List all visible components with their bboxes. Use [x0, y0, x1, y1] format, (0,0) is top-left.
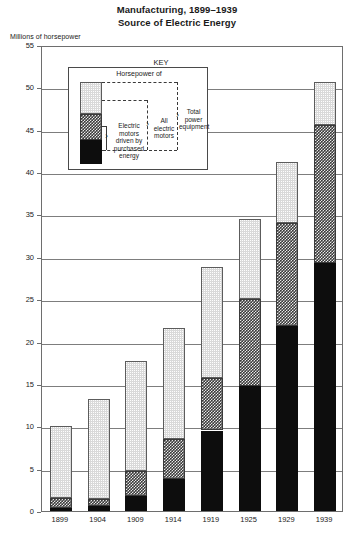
y-tick-label: 30 [4, 254, 34, 262]
segment-other-power [276, 162, 298, 223]
segment-other-power [314, 82, 336, 125]
key-dash-all-electric-bottom [102, 150, 147, 151]
segment-purchased-energy [50, 508, 72, 511]
segment-purchased-energy [201, 431, 223, 511]
y-tick-label: 55 [4, 42, 34, 50]
y-tick-label: 5 [4, 466, 34, 474]
segment-generated-energy [314, 125, 336, 262]
x-tick-label-1909: 1909 [115, 515, 155, 524]
y-tick-label: 20 [4, 339, 34, 347]
key-label-all-electric-motors: Allelectricmotors [151, 117, 177, 140]
segment-generated-energy [276, 223, 298, 326]
chart-title-block: Manufacturing, 1899–1939 Source of Elect… [0, 4, 354, 29]
x-tick-label-1925: 1925 [229, 515, 269, 524]
y-tick-label: 40 [4, 169, 34, 177]
key-swatch-purchased [80, 140, 102, 164]
key-dash-total-top [102, 82, 177, 83]
page-title: Manufacturing, 1899–1939 [0, 4, 354, 17]
key-label-all-electric-line: All [151, 117, 177, 125]
bar-1939[interactable] [314, 45, 336, 511]
segment-other-power [125, 361, 147, 471]
y-tick-label: 25 [4, 296, 34, 304]
bar-1929[interactable] [276, 45, 298, 511]
chart-legend-box: Horsepower of › Electricmotorsdriven byp… [68, 67, 208, 170]
key-brace-purchased-arrow: › [105, 132, 108, 141]
page-subtitle: Source of Electric Energy [0, 17, 354, 30]
x-tick-label-1929: 1929 [266, 515, 306, 524]
segment-other-power [163, 328, 185, 439]
bar-1925[interactable] [239, 45, 261, 511]
key-label-purchased-line: driven by [111, 137, 147, 145]
key-swatch-total-power [80, 82, 102, 114]
key-label-total-power-line: equipment [179, 123, 208, 131]
y-tick-label: 50 [4, 84, 34, 92]
key-label-purchased-line: purchased [111, 145, 147, 153]
key-heading: KEY [131, 58, 191, 67]
key-label-purchased-energy: Electricmotorsdriven bypurchasedenergy [111, 122, 147, 160]
y-tick-label: 45 [4, 127, 34, 135]
segment-generated-energy [125, 471, 147, 496]
key-label-all-electric-line: electric [151, 125, 177, 133]
segment-generated-energy [88, 499, 110, 506]
segment-other-power [239, 219, 261, 299]
segment-purchased-energy [88, 506, 110, 511]
segment-purchased-energy [276, 326, 298, 511]
segment-purchased-energy [125, 496, 147, 511]
key-stacked-swatch [80, 82, 102, 164]
key-brace-purchased-top [102, 126, 106, 127]
x-tick-label-1939: 1939 [304, 515, 344, 524]
key-label-total-power-equipment: Totalpowerequipment [179, 108, 208, 131]
key-brace-all-electric-arrow: › [146, 120, 149, 129]
segment-generated-energy [201, 378, 223, 431]
key-label-all-electric-line: motors [151, 132, 177, 140]
key-label-total-power-line: Total [179, 108, 208, 116]
segment-other-power [201, 267, 223, 378]
y-axis-caption: Millions of horsepower [10, 33, 81, 40]
y-tick-label: 0 [4, 508, 34, 516]
segment-purchased-energy [239, 386, 261, 511]
x-tick-label-1899: 1899 [40, 515, 80, 524]
y-tick-label: 15 [4, 381, 34, 389]
segment-generated-energy [50, 498, 72, 508]
key-label-purchased-line: motors [111, 130, 147, 138]
key-label-purchased-line: Electric [111, 122, 147, 130]
key-dash-total-bottom [149, 150, 177, 151]
key-dash-all-electric-top [102, 100, 147, 101]
segment-other-power [50, 426, 72, 498]
x-tick-label-1904: 1904 [78, 515, 118, 524]
x-tick-label-1914: 1914 [153, 515, 193, 524]
key-horsepower-of-label: Horsepower of [69, 70, 209, 77]
y-tick-label: 10 [4, 423, 34, 431]
segment-generated-energy [163, 439, 185, 479]
segment-purchased-energy [163, 479, 185, 511]
key-label-purchased-line: energy [111, 152, 147, 160]
segment-generated-energy [239, 299, 261, 386]
key-swatch-all-electric [80, 114, 102, 140]
key-label-total-power-line: power [179, 116, 208, 124]
segment-purchased-energy [314, 263, 336, 511]
y-tick-label: 35 [4, 211, 34, 219]
segment-other-power [88, 399, 110, 499]
y-tick-mark [37, 512, 41, 513]
x-tick-label-1919: 1919 [191, 515, 231, 524]
